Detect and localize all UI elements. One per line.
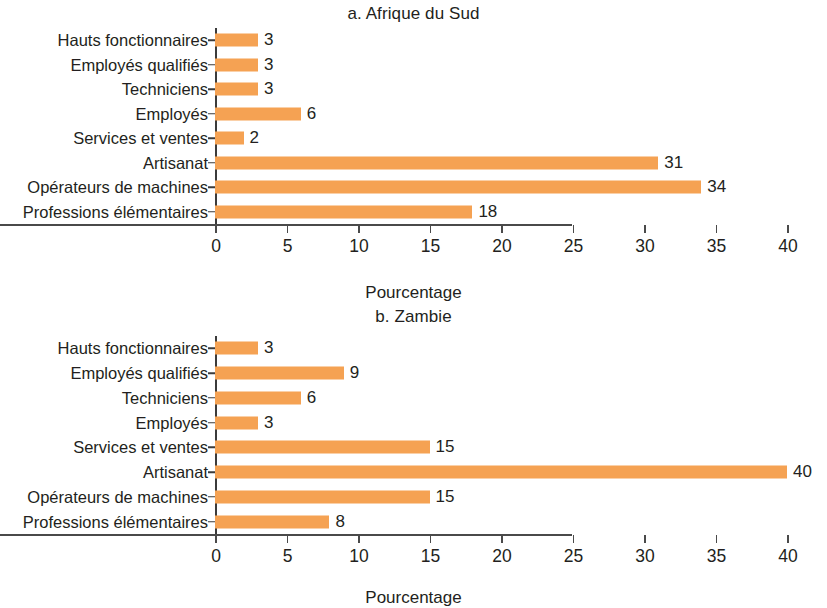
panel-afrique-du-sud: a. Afrique du Sud Hauts fonctionnairesEm… [0, 0, 827, 305]
bar-row: 40 [215, 460, 787, 485]
bar [215, 515, 329, 528]
bar [215, 441, 430, 454]
y-tick [208, 372, 215, 374]
x-tick [716, 225, 718, 233]
bar [215, 367, 344, 380]
bar-row: 15 [215, 485, 787, 510]
bar-value-label: 8 [329, 512, 344, 532]
x-tick [573, 225, 575, 233]
bar-value-label: 15 [430, 487, 455, 507]
x-tick-label: 35 [707, 236, 726, 257]
x-tick-label: 20 [492, 236, 511, 257]
x-tick [287, 535, 289, 543]
panel-b-title: b. Zambie [0, 307, 827, 327]
bar-value-label: 3 [258, 413, 273, 433]
bar [215, 132, 244, 145]
bar-value-label: 40 [787, 462, 812, 482]
category-label: Professions élémentaires [23, 204, 208, 221]
y-tick [208, 496, 215, 498]
bar-value-label: 34 [701, 177, 726, 197]
x-tick [358, 535, 360, 543]
y-tick [208, 211, 215, 213]
x-tick [573, 535, 575, 543]
bar [215, 34, 258, 47]
x-tick-label: 30 [635, 236, 654, 257]
panel-b-category-labels: Hauts fonctionnairesEmployés qualifiésTe… [0, 336, 208, 534]
category-label: Opérateurs de machines [27, 489, 208, 506]
bar-value-label: 2 [244, 128, 259, 148]
category-label: Employés qualifiés [70, 365, 208, 382]
bar-row: 8 [215, 509, 787, 534]
x-tick-label: 0 [211, 546, 221, 567]
bar-row: 3 [215, 410, 787, 435]
category-label: Techniciens [122, 390, 208, 407]
bar [215, 490, 430, 503]
y-tick [208, 471, 215, 473]
bar-row: 31 [215, 151, 787, 176]
category-label: Services et ventes [73, 130, 208, 147]
x-tick-label: 25 [564, 236, 583, 257]
bar-value-label: 3 [258, 55, 273, 75]
category-label: Hauts fonctionnaires [58, 32, 208, 49]
bar-row: 2 [215, 126, 787, 151]
bar-value-label: 3 [258, 79, 273, 99]
panel-a-category-labels: Hauts fonctionnairesEmployés qualifiésTe… [0, 28, 208, 224]
y-tick [208, 64, 215, 66]
x-tick [215, 535, 217, 543]
bar-value-label: 18 [472, 202, 497, 222]
x-tick-label: 5 [283, 546, 293, 567]
bar [215, 156, 658, 169]
panel-a-title: a. Afrique du Sud [0, 4, 827, 24]
x-tick-label: 40 [778, 546, 797, 567]
x-tick [787, 225, 789, 233]
y-tick [208, 521, 215, 523]
bar-row: 34 [215, 175, 787, 200]
x-tick-label: 20 [492, 546, 511, 567]
bar [215, 181, 701, 194]
bar [215, 58, 258, 71]
x-tick [430, 225, 432, 233]
bar-value-label: 31 [658, 153, 683, 173]
y-tick [208, 447, 215, 449]
bar-row: 3 [215, 28, 787, 53]
bar-row: 6 [215, 102, 787, 127]
x-tick [644, 535, 646, 543]
y-tick [208, 162, 215, 164]
bar [215, 205, 472, 218]
x-tick-label: 35 [707, 546, 726, 567]
x-tick-label: 10 [349, 236, 368, 257]
x-tick-label: 15 [421, 236, 440, 257]
y-tick [208, 113, 215, 115]
x-tick [287, 225, 289, 233]
y-tick [208, 40, 215, 42]
bar-row: 3 [215, 336, 787, 361]
x-tick-label: 10 [349, 546, 368, 567]
x-tick [716, 535, 718, 543]
y-tick [208, 397, 215, 399]
x-tick [644, 225, 646, 233]
x-tick [501, 225, 503, 233]
figure-two-panel-bar-charts: a. Afrique du Sud Hauts fonctionnairesEm… [0, 0, 827, 608]
bar-value-label: 9 [344, 363, 359, 383]
bar-value-label: 3 [258, 30, 273, 50]
x-tick [358, 225, 360, 233]
panel-b-plot-area: 39631540158 [215, 336, 787, 534]
x-tick-label: 0 [211, 236, 221, 257]
category-label: Professions élémentaires [23, 513, 208, 530]
category-label: Employés [136, 106, 208, 123]
panel-b-axis-title: Pourcentage [0, 588, 827, 608]
bar-row: 18 [215, 200, 787, 225]
panel-zambie: b. Zambie Hauts fonctionnairesEmployés q… [0, 305, 827, 608]
category-label: Opérateurs de machines [27, 179, 208, 196]
category-label: Artisanat [143, 155, 208, 172]
category-label: Employés [136, 414, 208, 431]
x-tick [501, 535, 503, 543]
bar-row: 15 [215, 435, 787, 460]
x-tick-label: 25 [564, 546, 583, 567]
bar-row: 9 [215, 361, 787, 386]
x-tick-label: 30 [635, 546, 654, 567]
bar [215, 466, 787, 479]
category-label: Hauts fonctionnaires [58, 340, 208, 357]
bar-value-label: 6 [301, 104, 316, 124]
bar [215, 391, 301, 404]
